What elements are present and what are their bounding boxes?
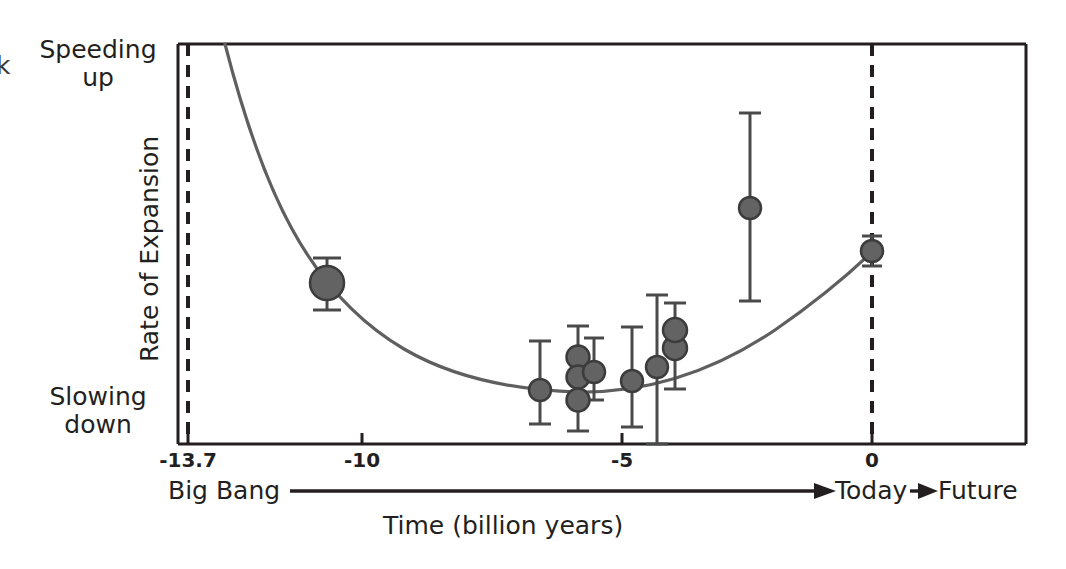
data-point xyxy=(861,240,883,262)
data-point xyxy=(583,361,605,383)
data-point xyxy=(310,266,344,300)
data-point xyxy=(621,370,643,392)
data-point xyxy=(567,389,590,412)
timeline-arrow-main xyxy=(290,483,836,499)
expansion-rate-chart: k Speedingup Slowingdown Rate of Expansi… xyxy=(0,0,1066,569)
timeline-future-label: Future xyxy=(938,477,1018,505)
x-tick-label: -10 xyxy=(317,448,407,472)
x-tick-label: -5 xyxy=(577,448,667,472)
y-axis-bottom-label-text: Slowingdown xyxy=(49,382,146,439)
cutoff-glyph: k xyxy=(0,52,10,80)
data-point xyxy=(529,379,551,401)
x-tick-label: 0 xyxy=(827,448,917,472)
y-axis-top-label-text: Speedingup xyxy=(39,35,156,92)
plot-frame xyxy=(178,44,1026,444)
error-bars xyxy=(313,113,882,444)
data-point xyxy=(646,356,668,378)
timeline-start-label: Big Bang xyxy=(168,477,280,505)
timeline-today-label: Today xyxy=(835,477,907,505)
y-axis-top-label: Speedingup xyxy=(28,36,168,92)
x-axis-ticks xyxy=(188,433,872,444)
data-point xyxy=(663,318,687,342)
data-points xyxy=(310,197,883,412)
timeline-arrow-future xyxy=(910,483,938,499)
x-axis-title: Time (billion years) xyxy=(383,512,623,540)
y-axis-title: Rate of Expansion xyxy=(136,89,164,409)
x-tick-label: -13.7 xyxy=(143,448,233,472)
data-point xyxy=(739,197,761,219)
